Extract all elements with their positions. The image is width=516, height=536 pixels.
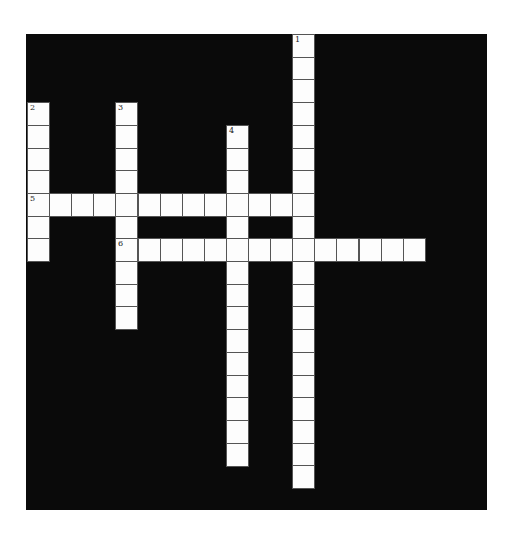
crossword-cell[interactable] — [182, 238, 205, 262]
crossword-cell[interactable] — [248, 193, 271, 217]
crossword-cell[interactable] — [270, 238, 293, 262]
clue-number: 3 — [118, 103, 123, 113]
crossword-cell[interactable] — [226, 148, 249, 172]
crossword-cell[interactable] — [292, 329, 315, 353]
crossword-cell[interactable] — [292, 57, 315, 81]
crossword-cell[interactable] — [248, 238, 271, 262]
crossword-cell[interactable] — [204, 238, 227, 262]
crossword-cell[interactable] — [292, 125, 315, 149]
crossword-cell[interactable]: 1 — [292, 34, 315, 58]
crossword-cell[interactable] — [182, 193, 205, 217]
crossword-cell[interactable] — [403, 238, 426, 262]
crossword-cell[interactable] — [27, 238, 50, 262]
crossword-cell[interactable] — [226, 329, 249, 353]
crossword-cell[interactable] — [292, 261, 315, 285]
crossword-cell[interactable] — [336, 238, 359, 262]
clue-number: 4 — [229, 126, 234, 136]
crossword-cell[interactable] — [115, 148, 138, 172]
crossword-cell[interactable] — [115, 306, 138, 330]
crossword-cell[interactable] — [292, 102, 315, 126]
crossword-cell[interactable] — [292, 306, 315, 330]
crossword-cell[interactable] — [93, 193, 116, 217]
crossword-cell[interactable] — [27, 216, 50, 240]
crossword-cell[interactable] — [226, 420, 249, 444]
crossword-cell[interactable] — [27, 148, 50, 172]
crossword-cell[interactable] — [226, 443, 249, 467]
clue-number: 5 — [30, 194, 35, 204]
clue-number: 2 — [30, 103, 35, 113]
crossword-cell[interactable] — [270, 193, 293, 217]
crossword-cell[interactable] — [204, 193, 227, 217]
crossword-cell[interactable] — [292, 216, 315, 240]
crossword-cell[interactable] — [292, 193, 315, 217]
crossword-cell[interactable] — [292, 284, 315, 308]
crossword-cell[interactable] — [226, 216, 249, 240]
crossword-cell[interactable] — [27, 170, 50, 194]
crossword-board: 125364 — [26, 34, 487, 510]
crossword-cell[interactable] — [292, 420, 315, 444]
crossword-cell[interactable] — [226, 397, 249, 421]
crossword-cell[interactable] — [292, 465, 315, 489]
crossword-cell[interactable] — [226, 306, 249, 330]
crossword-cell[interactable] — [160, 238, 183, 262]
crossword-cell[interactable] — [226, 261, 249, 285]
crossword-cell[interactable] — [226, 375, 249, 399]
crossword-cell[interactable] — [292, 238, 315, 262]
crossword-cell[interactable] — [138, 193, 161, 217]
clue-number: 6 — [118, 239, 123, 249]
crossword-cell[interactable]: 2 — [27, 102, 50, 126]
crossword-cell[interactable] — [292, 375, 315, 399]
crossword-cell[interactable] — [226, 352, 249, 376]
crossword-cell[interactable] — [226, 193, 249, 217]
crossword-cell[interactable] — [160, 193, 183, 217]
crossword-cell[interactable] — [115, 193, 138, 217]
crossword-cell[interactable] — [115, 216, 138, 240]
crossword-cell[interactable] — [359, 238, 382, 262]
crossword-cell[interactable] — [314, 238, 337, 262]
crossword-cell[interactable] — [49, 193, 72, 217]
crossword-cell[interactable] — [115, 170, 138, 194]
crossword-cell[interactable]: 3 — [115, 102, 138, 126]
crossword-cell[interactable] — [292, 170, 315, 194]
crossword-cell[interactable]: 4 — [226, 125, 249, 149]
crossword-cell[interactable] — [292, 352, 315, 376]
crossword-cell[interactable] — [292, 79, 315, 103]
crossword-cell[interactable] — [226, 238, 249, 262]
crossword-cell[interactable] — [71, 193, 94, 217]
crossword-cell[interactable] — [226, 284, 249, 308]
crossword-cell[interactable] — [115, 284, 138, 308]
crossword-cell[interactable] — [115, 125, 138, 149]
crossword-cell[interactable] — [381, 238, 404, 262]
crossword-cell[interactable] — [292, 148, 315, 172]
clue-number: 1 — [295, 35, 300, 45]
crossword-cell[interactable] — [292, 397, 315, 421]
crossword-cell[interactable] — [27, 125, 50, 149]
crossword-cell[interactable] — [226, 170, 249, 194]
crossword-cell[interactable] — [292, 443, 315, 467]
crossword-cell[interactable]: 5 — [27, 193, 50, 217]
crossword-cell[interactable] — [138, 238, 161, 262]
crossword-cell[interactable]: 6 — [115, 238, 138, 262]
crossword-cell[interactable] — [115, 261, 138, 285]
